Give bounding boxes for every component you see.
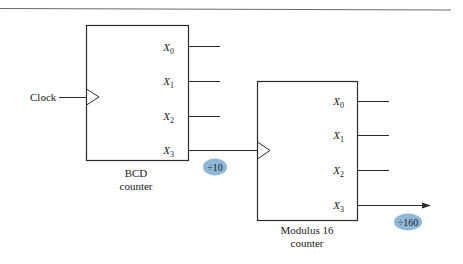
bcd-output-x0-label: X0 [162,41,174,56]
counter-cascade-diagram: X0 X1 X2 X3 BCD counter Clock ÷10 X0 X1 … [0,0,463,264]
svg-text:÷10: ÷10 [207,162,223,173]
bcd-output-x1-label: X1 [162,75,174,90]
bcd-counter-box [87,26,189,161]
output-arrowhead-icon [422,203,431,209]
bcd-output-x2-label: X2 [162,110,174,125]
bcd-counter-title: BCD [125,167,148,179]
divide-by-160-badge: ÷160 [394,214,422,231]
mod16-output-x1-label: X1 [332,129,344,144]
mod16-clock-input-triangle [258,142,271,159]
mod16-output-x0-label: X0 [332,95,344,110]
bcd-counter-block: X0 X1 X2 X3 BCD counter [87,26,221,193]
svg-text:÷160: ÷160 [398,217,419,228]
bcd-counter-subtitle: counter [120,180,153,192]
mod16-counter-subtitle: counter [291,237,324,249]
top-rule [0,9,451,11]
bcd-output-x3-label: X3 [162,144,174,159]
clock-label: Clock [30,91,57,103]
mod16-output-x3-label: X3 [332,199,344,214]
mod16-output-x2-label: X2 [332,164,344,179]
clock-input-triangle [87,89,100,105]
mod16-counter-title: Modulus 16 [281,224,334,236]
divide-by-10-badge: ÷10 [203,159,227,176]
